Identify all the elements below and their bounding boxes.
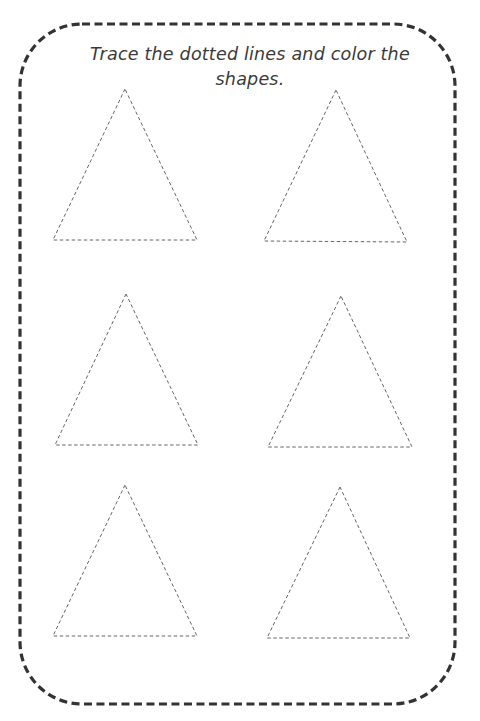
instruction-line-1: Trace the dotted lines and color the (60, 42, 440, 67)
instruction-line-2: shapes. (60, 67, 440, 92)
dotted-triangle-4 (268, 296, 412, 447)
dotted-triangle-1 (53, 89, 197, 240)
dotted-triangle-3 (55, 294, 198, 445)
dotted-triangle-2 (264, 90, 407, 242)
worksheet-page: Trace the dotted lines and color the sha… (0, 0, 480, 721)
worksheet-canvas (0, 0, 480, 721)
dashed-page-border (20, 24, 455, 704)
dotted-triangle-5 (53, 485, 197, 636)
dotted-triangle-6 (267, 487, 410, 638)
triangle-shapes (53, 89, 412, 638)
instruction-text: Trace the dotted lines and color the sha… (60, 42, 440, 92)
